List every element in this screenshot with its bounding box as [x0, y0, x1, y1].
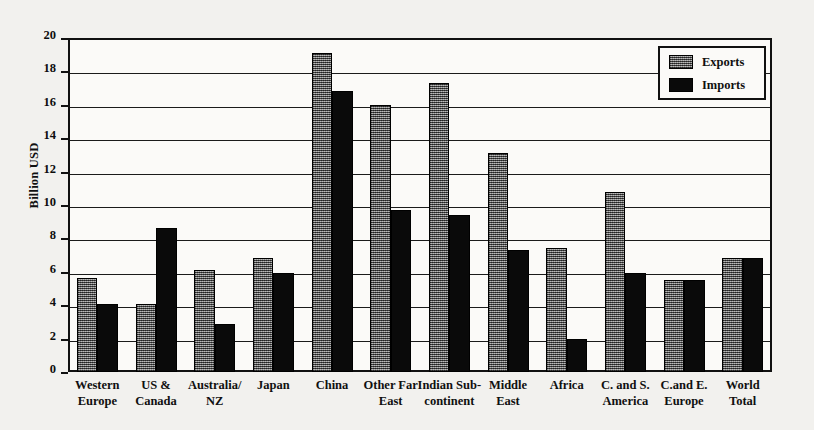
- y-axis-tick-label: 12: [44, 163, 57, 176]
- y-axis-tick-mark: [61, 138, 68, 140]
- y-axis-tick-mark: [61, 305, 68, 307]
- bar-exports: [664, 280, 685, 372]
- bar-imports: [391, 210, 412, 372]
- legend-label-imports: Imports: [702, 78, 745, 93]
- bar-group: [370, 38, 411, 372]
- y-axis-tick-label: 18: [44, 62, 57, 75]
- y-axis-tick-mark: [61, 339, 68, 341]
- y-axis-tick-label: 4: [50, 296, 56, 309]
- bar-imports: [684, 280, 705, 372]
- y-axis-tick-label: 20: [44, 29, 57, 42]
- bar-exports: [77, 278, 98, 372]
- bar-exports: [370, 105, 391, 372]
- legend-label-exports: Exports: [702, 55, 744, 70]
- y-axis-tick-mark: [61, 71, 68, 73]
- bar-imports: [156, 228, 177, 372]
- bar-group: [605, 38, 646, 372]
- bar-exports: [253, 258, 274, 372]
- x-axis-label-line: NZ: [179, 394, 250, 410]
- x-axis-label-line: World: [707, 378, 778, 394]
- x-axis-labels: WesternEuropeUS &CanadaAustralia/NZJapan…: [68, 378, 772, 428]
- bar-exports: [605, 192, 626, 372]
- bar-imports: [97, 304, 118, 372]
- bar-exports: [136, 304, 157, 372]
- bar-group: [429, 38, 470, 372]
- bar-imports: [743, 258, 764, 372]
- y-axis-tick-mark: [61, 105, 68, 107]
- bar-exports: [429, 83, 450, 372]
- bar-group: [546, 38, 587, 372]
- x-axis-label: WorldTotal: [707, 378, 778, 409]
- y-axis-tick-label: 0: [50, 363, 56, 376]
- bar-imports: [215, 324, 236, 372]
- bar-imports: [508, 250, 529, 372]
- y-axis-tick-mark: [61, 372, 68, 374]
- bar-group: [136, 38, 177, 372]
- y-axis-tick-label: 6: [50, 263, 56, 276]
- y-axis-tick-mark: [61, 272, 68, 274]
- y-axis-tick-label: 14: [44, 129, 57, 142]
- chart-legend: Exports Imports: [658, 46, 766, 100]
- y-axis-tick-mark: [61, 238, 68, 240]
- bar-chart: Billion USD 02468101214161820 WesternEur…: [0, 0, 814, 430]
- bar-exports: [722, 258, 743, 372]
- bar-imports: [449, 215, 470, 372]
- x-axis-label-line: East: [473, 394, 544, 410]
- bar-imports: [332, 91, 353, 372]
- bar-group: [77, 38, 118, 372]
- bar-exports: [488, 153, 509, 372]
- bar-imports: [273, 273, 294, 372]
- bar-imports: [567, 339, 588, 372]
- bar-group: [488, 38, 529, 372]
- y-axis-tick-mark: [61, 205, 68, 207]
- y-axis-tick-label: 16: [44, 96, 57, 109]
- bar-exports: [194, 270, 215, 372]
- legend-item-imports: Imports: [669, 76, 745, 94]
- y-axis-tick-label: 10: [44, 196, 57, 209]
- y-axis-tick-mark: [61, 172, 68, 174]
- bar-group: [312, 38, 353, 372]
- bar-imports: [625, 273, 646, 372]
- y-axis-tick-label: 8: [50, 229, 56, 242]
- bar-exports: [546, 248, 567, 372]
- y-axis-tick-label: 2: [50, 330, 56, 343]
- y-axis-tick-mark: [61, 38, 68, 40]
- legend-item-exports: Exports: [669, 53, 744, 71]
- legend-swatch-imports-icon: [669, 78, 693, 92]
- legend-swatch-exports-icon: [669, 55, 693, 69]
- bar-group: [194, 38, 235, 372]
- x-axis-label-line: Total: [707, 394, 778, 410]
- y-axis-title: Billion USD: [27, 106, 42, 246]
- bar-exports: [312, 53, 333, 372]
- bar-group: [253, 38, 294, 372]
